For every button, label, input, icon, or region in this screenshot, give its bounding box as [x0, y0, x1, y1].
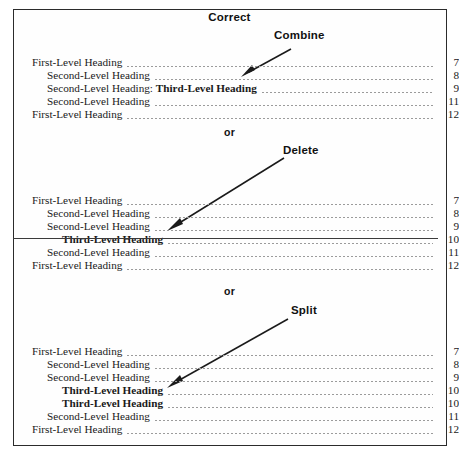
dot-leader [127, 58, 433, 69]
toc-entry-title: Second-Level Heading [47, 246, 155, 259]
table-row: Third-Level Heading 10 [0, 384, 459, 397]
table-row: Second-Level Heading 11 [0, 95, 459, 108]
toc-entry-title: Second-Level Heading [47, 95, 155, 108]
toc-entry-title: First-Level Heading [32, 345, 127, 358]
toc-entry-page: 10 [433, 397, 459, 410]
dot-leader [168, 386, 433, 397]
table-row: Second-Level Heading 8 [0, 207, 459, 220]
table-row: Third-Level Heading 10 [0, 397, 459, 410]
toc-entry-page: 12 [433, 108, 459, 121]
action-label-split: Split [291, 304, 317, 316]
table-row: First-Level Heading 7 [0, 345, 459, 358]
toc-entry-title: Second-Level Heading: Third-Level Headin… [47, 82, 262, 95]
dot-leader [127, 425, 433, 436]
separator-or-2: or [0, 285, 459, 297]
table-row: Second-Level Heading: Third-Level Headin… [0, 82, 459, 95]
toc-entry-title-bold-suffix: Third-Level Heading [156, 82, 257, 94]
toc-entry-page: 8 [433, 69, 459, 82]
toc-entry-page: 8 [433, 358, 459, 371]
action-label-combine: Combine [274, 29, 325, 41]
toc-entry-page: 12 [433, 423, 459, 436]
dot-leader [155, 209, 433, 220]
toc-entry-title: First-Level Heading [32, 423, 127, 436]
table-row: First-Level Heading 12 [0, 108, 459, 121]
toc-entry-page: 10 [433, 384, 459, 397]
toc-entry-page: 11 [433, 95, 459, 108]
toc-entry-title: Third-Level Heading [62, 233, 168, 246]
dot-leader [127, 261, 433, 272]
toc-entry-title: Second-Level Heading [47, 69, 155, 82]
toc-entry-page: 9 [433, 82, 459, 95]
toc-entry-title: Second-Level Heading [47, 358, 155, 371]
table-row: Second-Level Heading 9 [0, 371, 459, 384]
table-row: First-Level Heading 7 [0, 194, 459, 207]
table-row: Second-Level Heading 8 [0, 358, 459, 371]
toc-block-combine: First-Level Heading 7 Second-Level Headi… [0, 56, 459, 121]
toc-entry-title: First-Level Heading [32, 56, 127, 69]
toc-entry-title-prefix: Second-Level Heading: [47, 82, 156, 94]
dot-leader [168, 235, 433, 246]
toc-entry-page: 11 [433, 410, 459, 423]
toc-entry-title: Second-Level Heading [47, 410, 155, 423]
toc-entry-page: 9 [433, 220, 459, 233]
toc-entry-page: 10 [433, 233, 459, 246]
dot-leader [155, 248, 433, 259]
dot-leader [262, 84, 433, 95]
table-row: Second-Level Heading 11 [0, 410, 459, 423]
deletion-strikethrough-rule [13, 238, 438, 239]
table-row: Second-Level Heading 8 [0, 69, 459, 82]
toc-entry-page: 12 [433, 259, 459, 272]
toc-entry-page: 7 [433, 345, 459, 358]
toc-entry-title: First-Level Heading [32, 259, 127, 272]
toc-entry-title: Third-Level Heading [62, 384, 168, 397]
dot-leader [155, 412, 433, 423]
dot-leader [168, 399, 433, 410]
toc-block-split: First-Level Heading 7 Second-Level Headi… [0, 345, 459, 436]
table-row-struck: Third-Level Heading 10 [0, 233, 459, 246]
toc-entry-page: 7 [433, 56, 459, 69]
toc-entry-title: Second-Level Heading [47, 207, 155, 220]
toc-entry-title: First-Level Heading [32, 108, 127, 121]
toc-block-delete: First-Level Heading 7 Second-Level Headi… [0, 194, 459, 272]
table-row: First-Level Heading 12 [0, 259, 459, 272]
toc-entry-title: Second-Level Heading [47, 220, 155, 233]
dot-leader [155, 360, 433, 371]
dot-leader [127, 196, 433, 207]
toc-entry-title: First-Level Heading [32, 194, 127, 207]
action-label-delete: Delete [283, 144, 319, 156]
separator-or-1: or [0, 126, 459, 138]
table-row: Second-Level Heading 11 [0, 246, 459, 259]
dot-leader [127, 110, 433, 121]
toc-entry-page: 9 [433, 371, 459, 384]
dot-leader [155, 71, 433, 82]
dot-leader [155, 97, 433, 108]
dot-leader [155, 373, 433, 384]
table-row: Second-Level Heading 9 [0, 220, 459, 233]
figure-caption-correct: Correct [0, 11, 459, 23]
toc-entry-page: 7 [433, 194, 459, 207]
toc-entry-page: 11 [433, 246, 459, 259]
toc-entry-page: 8 [433, 207, 459, 220]
table-row: First-Level Heading 12 [0, 423, 459, 436]
dot-leader [155, 222, 433, 233]
table-row: First-Level Heading 7 [0, 56, 459, 69]
dot-leader [127, 347, 433, 358]
toc-entry-title: Second-Level Heading [47, 371, 155, 384]
toc-entry-title: Third-Level Heading [62, 397, 168, 410]
